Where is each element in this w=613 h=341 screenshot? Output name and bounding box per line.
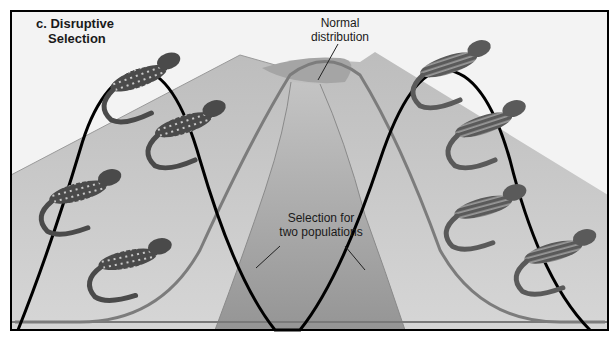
- panel-title-line2: Selection: [36, 32, 114, 47]
- panel-title: c. Disruptive Selection: [36, 17, 114, 47]
- disruptive-selection-figure: [0, 0, 613, 341]
- selection-label: Selection for two populations: [251, 212, 391, 240]
- normal-distribution-label-line2: distribution: [280, 31, 400, 45]
- selection-label-line1: Selection for: [251, 212, 391, 226]
- normal-distribution-label: Normal distribution: [280, 17, 400, 45]
- panel-title-line1: c. Disruptive: [36, 17, 114, 32]
- selection-label-line2: two populations: [251, 226, 391, 240]
- normal-distribution-label-line1: Normal: [280, 17, 400, 31]
